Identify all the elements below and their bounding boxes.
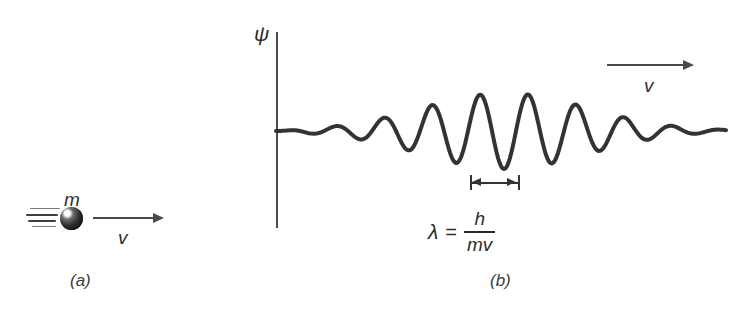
de-broglie-wave-figure: m v (a) ψ v (0, 0, 748, 316)
velocity-label-b: v (644, 76, 654, 95)
equation-fraction: h mv (464, 208, 495, 256)
de-broglie-equation: λ = h mv (428, 208, 495, 256)
panel-b-caption: (b) (490, 271, 511, 291)
equation-equals: = (445, 221, 457, 244)
velocity-arrow-b (607, 60, 699, 71)
wavelength-dimension-marker (470, 175, 522, 191)
psi-axis-label: ψ (254, 23, 269, 44)
equation-lambda: λ (428, 220, 438, 244)
equation-numerator: h (471, 208, 488, 231)
panel-b: ψ v λ = h mv (0, 0, 748, 316)
equation-denominator: mv (464, 233, 495, 256)
wave-packet-curve (270, 80, 740, 190)
